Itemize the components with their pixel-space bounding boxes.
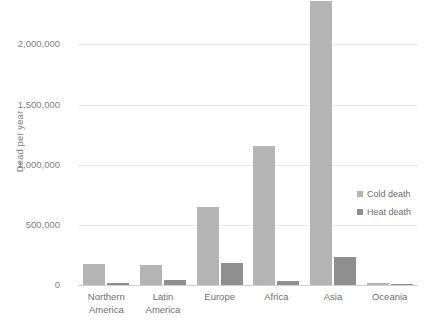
bar-cold-death [140,265,162,285]
bar-chart: Dead per year 0500,0001,000,0001,500,000… [0,0,430,331]
legend-item[interactable]: Cold death [357,186,429,201]
legend-label: Heat death [367,207,411,217]
x-tick-label-line: America [78,303,135,316]
bar-heat-death [164,280,186,285]
y-tick-label: 1,500,000 [0,99,60,110]
legend-swatch-icon [357,191,363,197]
x-tick-label-line: America [135,303,192,316]
bar-group [140,0,186,285]
x-tick-label: LatinAmerica [135,290,192,316]
x-tick-label: NorthernAmerica [78,290,135,316]
y-tick-label: 500,000 [0,219,60,230]
legend-label: Cold death [367,189,411,199]
bar-group [310,0,356,285]
bar-cold-death [253,146,275,285]
y-tick-label: 0 [0,279,60,290]
legend-swatch-icon [357,209,363,215]
bar-group [367,0,413,285]
x-tick-label: Asia [305,290,362,303]
x-axis-tick-labels: NorthernAmericaLatinAmericaEuropeAfricaA… [78,290,418,331]
bar-heat-death [391,284,413,285]
bar-group [83,0,129,285]
bar-cold-death [83,264,105,285]
bar-cold-death [197,207,219,285]
x-axis-line [78,285,418,286]
x-tick-label-line: Latin [135,290,192,303]
x-tick-label-line: Africa [248,290,305,303]
x-tick-label-line: Europe [191,290,248,303]
bar-heat-death [334,257,356,285]
x-tick-label: Oceania [361,290,418,303]
bar-heat-death [277,281,299,285]
x-tick-label: Europe [191,290,248,303]
x-tick-label-line: Northern [78,290,135,303]
bar-cold-death [367,283,389,285]
plot-area [78,0,418,285]
x-tick-label: Africa [248,290,305,303]
legend-item[interactable]: Heat death [357,204,429,219]
legend: Cold deathHeat death [357,186,429,222]
bar-cold-death [310,1,332,285]
y-tick-label: 1,000,000 [0,159,60,170]
y-tick-label: 2,000,000 [0,38,60,49]
bar-heat-death [221,263,243,285]
bar-group [253,0,299,285]
bar-group [197,0,243,285]
bar-heat-death [107,283,129,285]
x-tick-label-line: Asia [305,290,362,303]
x-tick-label-line: Oceania [361,290,418,303]
